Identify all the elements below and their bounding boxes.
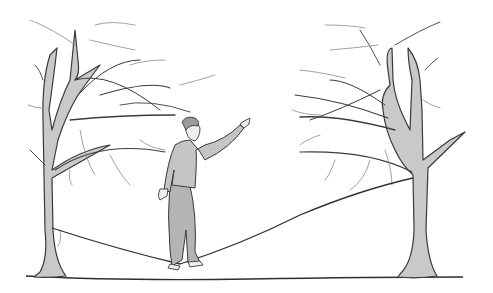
slackline — [52, 178, 413, 264]
ground-line — [26, 276, 463, 280]
slackline-drawing — [0, 0, 493, 293]
right-tree — [292, 22, 465, 278]
slackliner — [159, 117, 251, 270]
illustration — [0, 0, 493, 293]
